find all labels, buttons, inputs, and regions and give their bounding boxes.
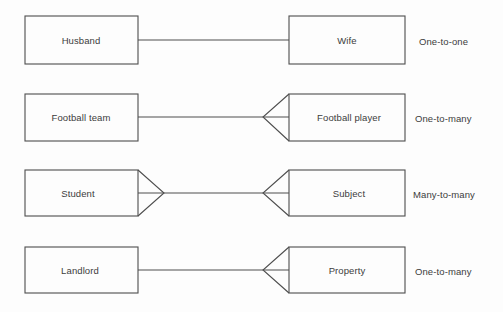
entity-box-property[interactable] — [289, 247, 405, 293]
entity-box-student[interactable] — [25, 170, 138, 216]
entity-box-football-team[interactable] — [25, 94, 138, 141]
relationship-row-1 — [25, 16, 405, 64]
entity-box-landlord[interactable] — [25, 247, 138, 293]
cardinality-label-3: Many-to-many — [413, 189, 475, 200]
relationship-row-3 — [25, 170, 405, 216]
entity-box-husband[interactable] — [25, 16, 138, 64]
er-diagram-canvas: Husband Wife One-to-one Football team Fo… — [0, 0, 503, 312]
entity-box-subject[interactable] — [289, 170, 405, 216]
relationship-row-2 — [25, 94, 405, 141]
relationship-row-4 — [25, 247, 405, 293]
cardinality-label-4: One-to-many — [415, 266, 472, 277]
entity-box-football-player[interactable] — [289, 94, 405, 141]
cardinality-label-1: One-to-one — [419, 36, 468, 47]
cardinality-label-2: One-to-many — [415, 113, 472, 124]
entity-box-wife[interactable] — [289, 16, 405, 64]
